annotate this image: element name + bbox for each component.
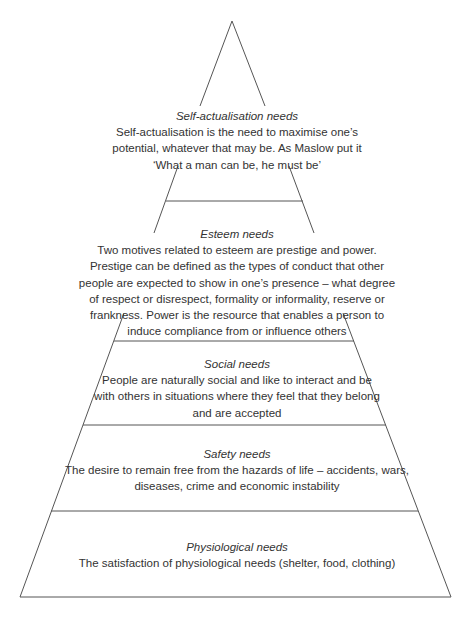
level-description: Two motives related to esteem are presti… [0, 242, 474, 340]
pyramid-left-edge-upper [154, 166, 178, 233]
description-line: of respect or disrespect, formality or i… [0, 291, 474, 307]
level-esteem: Esteem needs Two motives related to este… [0, 226, 474, 340]
pyramid-left-edge-top [200, 21, 232, 106]
description-line: and are accepted [0, 405, 474, 421]
description-line: frankness. Power is the resource that en… [0, 307, 474, 323]
description-line: ‘What a man can be, he must be’ [0, 157, 474, 173]
level-social: Social needs People are naturally social… [0, 356, 474, 421]
level-description: The desire to remain free from the hazar… [0, 462, 474, 495]
description-line: Self-actualisation is the need to maximi… [0, 124, 474, 140]
level-description: The satisfaction of physiological needs … [0, 555, 474, 571]
description-line: people are expected to show in one’s pre… [0, 275, 474, 291]
description-line: The satisfaction of physiological needs … [0, 555, 474, 571]
level-title: Self-actualisation needs [0, 108, 474, 124]
level-title: Safety needs [0, 446, 474, 462]
level-title: Esteem needs [0, 226, 474, 242]
description-line: induce compliance from or influence othe… [0, 323, 474, 339]
pyramid-right-edge-top [232, 21, 265, 106]
level-title: Social needs [0, 356, 474, 372]
level-title: Physiological needs [0, 539, 474, 555]
description-line: with others in situations where they fee… [0, 388, 474, 404]
description-line: The desire to remain free from the hazar… [0, 462, 474, 478]
level-self-actualisation: Self-actualisation needs Self-actualisat… [0, 108, 474, 173]
description-line: People are naturally social and like to … [0, 372, 474, 388]
level-description: Self-actualisation is the need to maximi… [0, 124, 474, 173]
description-line: Prestige can be defined as the types of … [0, 258, 474, 274]
level-safety: Safety needs The desire to remain free f… [0, 446, 474, 495]
description-line: Two motives related to esteem are presti… [0, 242, 474, 258]
description-line: diseases, crime and economic instability [0, 478, 474, 494]
level-description: People are naturally social and like to … [0, 372, 474, 421]
pyramid-right-edge-upper [289, 166, 314, 233]
description-line: potential, whatever that may be. As Masl… [0, 140, 474, 156]
level-physiological: Physiological needs The satisfaction of … [0, 539, 474, 571]
